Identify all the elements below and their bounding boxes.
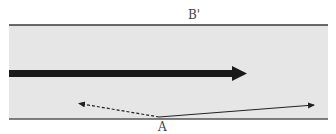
label-b-prime: B' [188,9,200,21]
diagram-svg [0,0,336,134]
label-a: A [158,121,167,133]
diagram: B' A [0,0,336,134]
